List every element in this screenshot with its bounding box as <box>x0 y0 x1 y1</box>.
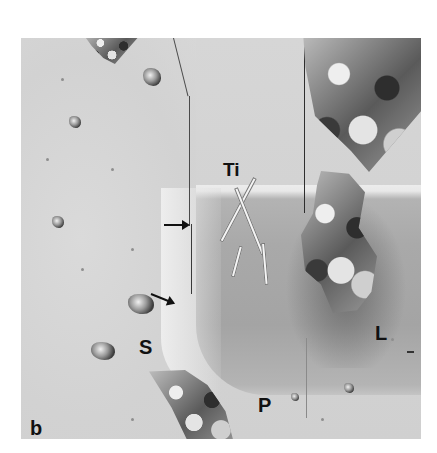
arrow-pointer <box>164 224 188 226</box>
panel-label: b <box>30 418 42 438</box>
crack-line <box>306 338 307 418</box>
small-particle <box>69 116 81 128</box>
small-particle <box>52 216 64 228</box>
surface-speck <box>61 78 64 81</box>
surface-speck <box>111 168 114 171</box>
small-particle <box>344 383 354 393</box>
crack-line <box>191 224 192 294</box>
scale-bar <box>407 351 414 353</box>
surface-speck <box>81 268 84 271</box>
label-s: S <box>139 337 152 357</box>
surface-speck <box>391 338 394 341</box>
small-particle <box>128 294 154 314</box>
label-l: L <box>375 323 387 343</box>
surface-speck <box>131 248 134 251</box>
label-titanium: Ti <box>223 160 240 179</box>
crack-line <box>189 96 190 226</box>
small-particle <box>143 68 161 86</box>
surface-speck <box>46 158 49 161</box>
small-particle <box>91 342 115 360</box>
surface-speck <box>131 418 134 421</box>
label-p: P <box>258 395 271 415</box>
crack-line <box>304 38 305 213</box>
small-particle <box>291 393 299 401</box>
micrograph-panel: Ti S L P b <box>21 38 421 439</box>
surface-speck <box>321 418 324 421</box>
